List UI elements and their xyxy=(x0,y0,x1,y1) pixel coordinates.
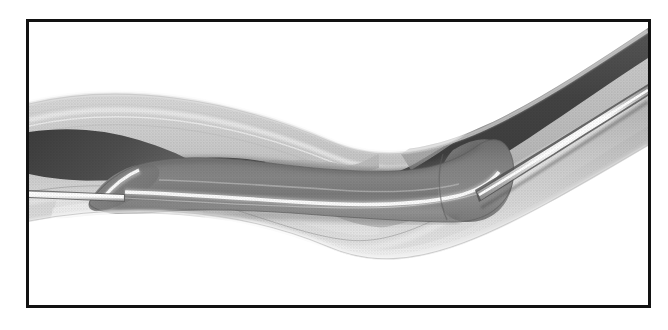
figure-frame: Balloon angioplasty catheter inflated wi… xyxy=(26,19,651,308)
figure-page: Balloon angioplasty catheter inflated wi… xyxy=(0,0,668,330)
medical-illustration-canvas xyxy=(29,22,648,305)
